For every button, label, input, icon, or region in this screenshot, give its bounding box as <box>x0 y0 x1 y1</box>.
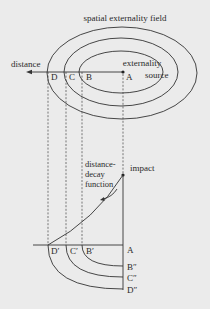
label-C-prime: C′ <box>70 246 78 256</box>
decay-label-line2: decay <box>85 169 106 179</box>
impact-label: impact <box>130 163 155 173</box>
label-D: D <box>51 72 58 82</box>
source-label: source <box>145 70 169 80</box>
arrowhead-icon <box>26 70 32 74</box>
externality-diagram: spatial externality field distance exter… <box>0 0 210 309</box>
decay-label-line1: distance- <box>85 159 116 169</box>
label-B-prime: B′ <box>86 246 94 256</box>
source-point <box>121 70 124 73</box>
distance-label: distance <box>11 59 41 69</box>
label-D-double-prime: D″ <box>127 285 137 295</box>
diagram-title: spatial externality field <box>84 13 167 23</box>
label-A-bottom: A <box>127 245 134 255</box>
label-B: B <box>86 72 92 82</box>
label-A: A <box>126 72 133 82</box>
externality-label: externality <box>123 58 162 68</box>
label-C: C <box>69 72 75 82</box>
pointer-arrow-icon <box>100 197 105 201</box>
label-B-double-prime: B″ <box>127 262 137 272</box>
decay-label-line3: function <box>85 179 114 189</box>
label-D-prime: D′ <box>51 246 59 256</box>
label-C-double-prime: C″ <box>127 273 137 283</box>
